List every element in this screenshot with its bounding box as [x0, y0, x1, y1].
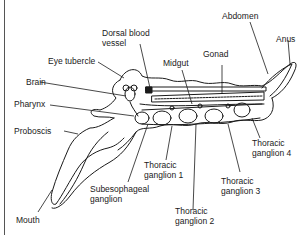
leader-proboscis	[64, 131, 78, 134]
label-line: vessel	[102, 38, 150, 48]
brain-shape	[125, 87, 135, 101]
label-eye-tubercle: Eye tubercle	[48, 56, 95, 66]
leader-dorsal-blood-vessel	[140, 44, 150, 88]
dorsal-blood-vessel	[146, 87, 266, 91]
leader-abdomen	[250, 22, 268, 74]
label-line: ganglion 2	[175, 216, 214, 226]
label-line: Subesophageal	[90, 184, 149, 194]
label-line: Thoracic	[175, 206, 214, 216]
subesophageal-ganglion	[135, 112, 149, 124]
label-gonad: Gonad	[203, 49, 229, 59]
label-line: ganglion 1	[144, 170, 183, 180]
leader-mouth	[38, 190, 52, 212]
label-midgut: Midgut	[163, 58, 189, 68]
thoracic-ganglion-2-shape	[179, 109, 197, 123]
label-thoracic-ganglion-3: Thoracic ganglion 3	[221, 176, 260, 196]
label-line: Thoracic	[221, 176, 260, 186]
label-abdomen: Abdomen	[222, 11, 258, 21]
leader-thoracic-2	[193, 124, 196, 210]
label-line: Dorsal blood	[102, 28, 150, 38]
label-anus: Anus	[276, 34, 295, 44]
label-line: Thoracic	[252, 138, 291, 148]
label-brain: Brain	[26, 77, 46, 87]
label-thoracic-ganglion-4: Thoracic ganglion 4	[252, 138, 291, 158]
label-proboscis: Proboscis	[14, 126, 51, 136]
label-thoracic-ganglion-1: Thoracic ganglion 1	[144, 160, 183, 180]
label-thoracic-ganglion-2: Thoracic ganglion 2	[175, 206, 214, 226]
label-line: ganglion 4	[252, 148, 291, 158]
label-line: ganglion	[90, 194, 149, 204]
thoracic-ganglion-1-shape	[153, 111, 171, 125]
label-dorsal-blood-vessel: Dorsal blood vessel	[102, 28, 150, 48]
thoracic-ganglion-3-shape	[205, 109, 223, 123]
label-line: Thoracic	[144, 160, 183, 170]
leader-eye-tubercle	[98, 62, 124, 78]
label-mouth: Mouth	[16, 215, 40, 225]
gonad-tube	[152, 92, 264, 102]
leader-thoracic-1	[166, 126, 172, 160]
label-pharynx: Pharynx	[14, 99, 45, 109]
label-line: ganglion 3	[221, 186, 260, 196]
leader-thoracic-3	[228, 124, 240, 172]
label-subesophageal-ganglion: Subesophageal ganglion	[90, 184, 149, 204]
